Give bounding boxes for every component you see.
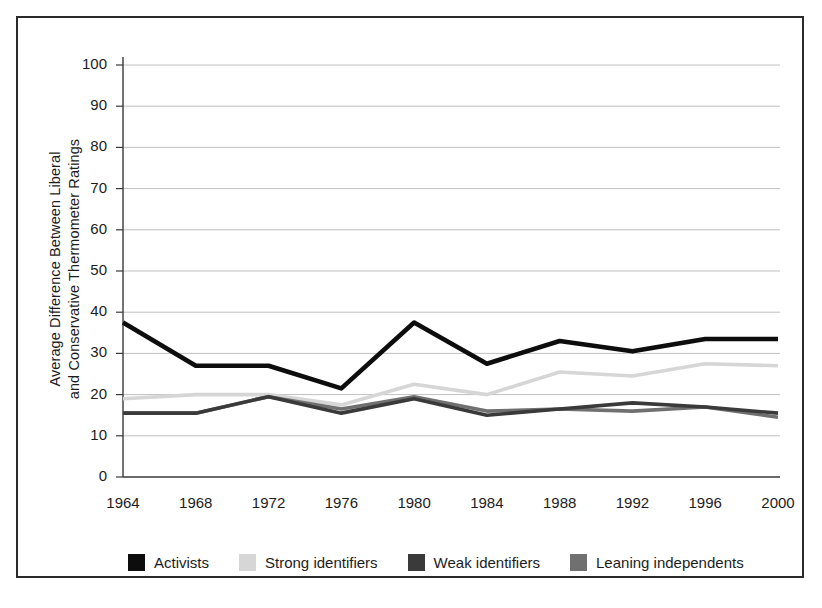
legend-item[interactable]: Weak identifiers: [408, 554, 540, 571]
series-line-activists: [123, 323, 778, 389]
chart-legend: ActivistsStrong identifiersWeak identifi…: [128, 554, 774, 571]
legend-swatch-icon: [570, 554, 587, 571]
legend-item[interactable]: Strong identifiers: [239, 554, 378, 571]
legend-item[interactable]: Activists: [128, 554, 209, 571]
legend-item[interactable]: Leaning independents: [570, 554, 744, 571]
plot-area: [18, 18, 806, 580]
legend-item-label: Strong identifiers: [265, 554, 378, 571]
legend-item-label: Leaning independents: [596, 554, 744, 571]
chart-frame: Average Difference Between Liberal and C…: [16, 16, 804, 578]
legend-swatch-icon: [239, 554, 256, 571]
series-line-strong-identifiers: [123, 364, 778, 405]
axis-lines: [116, 57, 123, 477]
legend-item-label: Activists: [154, 554, 209, 571]
gridlines: [123, 65, 780, 477]
figure-container: Average Difference Between Liberal and C…: [0, 0, 822, 608]
series-lines: [123, 323, 778, 418]
legend-swatch-icon: [408, 554, 425, 571]
legend-item-label: Weak identifiers: [434, 554, 540, 571]
legend-swatch-icon: [128, 554, 145, 571]
series-line-weak-identifiers: [123, 397, 778, 416]
